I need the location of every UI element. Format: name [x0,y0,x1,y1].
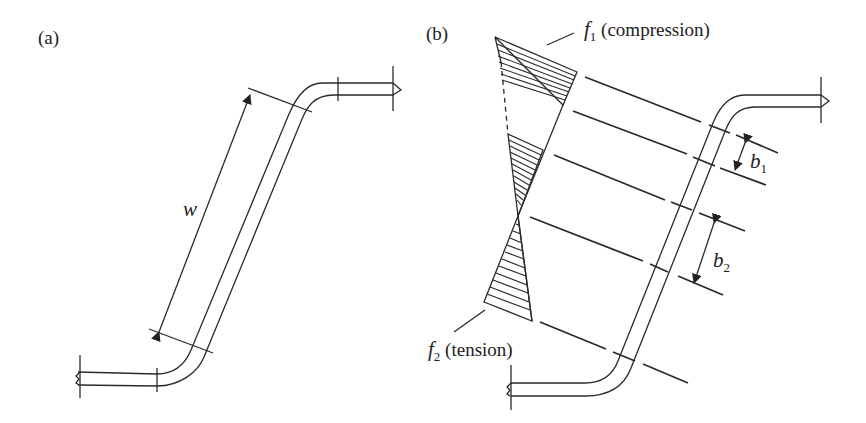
dimension-w-label: w [183,197,197,221]
panel-b-label: (b) [426,23,448,45]
svg-text:f2 (tension): f2 (tension) [428,337,513,364]
f2-text: (tension) [440,339,512,361]
b1-symbol: b [750,149,761,173]
panel-a-label: (a) [38,27,59,49]
diagram-canvas: (a) w (b) [0,0,866,423]
svg-text:f1 (compression): f1 (compression) [584,17,710,44]
f2-tension-label: f2 (tension) [428,310,513,364]
f1-text: (compression) [596,19,709,41]
b1-subscript: 1 [761,161,768,176]
dimension-w: w [149,88,312,353]
section-lines [530,77,778,383]
stress-distribution [484,37,577,321]
b2-subscript: 2 [724,260,731,275]
svg-text:b2: b2 [713,248,730,275]
f1-compression-label: f1 (compression) [547,17,710,45]
sheet-profile-a [76,66,401,398]
panel-a: (a) w [38,27,401,398]
b2-symbol: b [713,248,724,272]
hatch-bottom [487,224,530,310]
panel-b: (b) f1 (compression) f2 (tension) [426,17,829,410]
dimension-b1: b1 [735,143,767,176]
dimension-b2: b2 [694,223,730,283]
sheet-profile-b [507,77,829,410]
svg-text:b1: b1 [750,149,767,176]
hatch-top [497,44,575,100]
